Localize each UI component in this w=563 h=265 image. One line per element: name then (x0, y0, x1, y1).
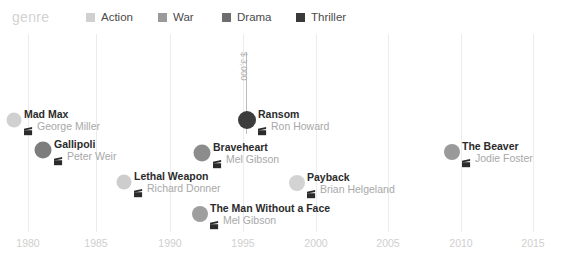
data-point-label: The BeaverJodie Foster (462, 140, 533, 165)
director-name: Mel Gibson (223, 214, 276, 226)
clapperboard-icon (213, 155, 222, 164)
data-point[interactable] (35, 142, 52, 159)
x-axis-tick-label: 2010 (449, 237, 472, 249)
clapperboard-icon (54, 152, 63, 161)
director-name: George Miller (37, 120, 100, 132)
clapperboard-icon (134, 184, 143, 193)
x-axis-tick-label: 1980 (16, 237, 39, 249)
clapperboard-icon (307, 185, 316, 194)
director-row: Richard Donner (134, 182, 221, 194)
clapperboard-icon (258, 122, 267, 131)
x-axis-tick-label: 2015 (521, 237, 544, 249)
gridline (96, 34, 97, 232)
film-title: The Beaver (462, 140, 533, 152)
director-row: George Miller (24, 120, 100, 132)
data-point-label: Lethal WeaponRichard Donner (134, 170, 221, 195)
film-title: The Man Without a Face (210, 202, 330, 214)
director-row: Ron Howard (258, 120, 329, 132)
data-point[interactable] (7, 113, 22, 128)
legend-item-label: Drama (237, 11, 272, 23)
data-point[interactable] (289, 175, 305, 191)
chart-root: genre ActionWarDramaThriller 19801985199… (0, 0, 563, 265)
data-point[interactable] (238, 111, 256, 129)
legend-swatch-icon (222, 13, 231, 22)
film-title: Lethal Weapon (134, 170, 221, 182)
legend-item-label: War (173, 11, 194, 23)
director-row: Jodie Foster (462, 152, 533, 164)
x-axis-tick-label: 2005 (376, 237, 399, 249)
data-point-label: GallipoliPeter Weir (54, 138, 116, 163)
legend: genre ActionWarDramaThriller (0, 0, 563, 34)
legend-swatch-icon (296, 13, 305, 22)
data-point[interactable] (444, 144, 460, 160)
film-title: Ransom (258, 108, 329, 120)
x-axis-tick-label: 1995 (231, 237, 254, 249)
legend-item-drama[interactable]: Drama (222, 11, 272, 23)
director-row: Mel Gibson (210, 214, 330, 226)
director-name: Mel Gibson (226, 153, 279, 165)
data-point-label: Mad MaxGeorge Miller (24, 108, 100, 133)
film-title: Mad Max (24, 108, 100, 120)
data-point[interactable] (117, 175, 132, 190)
director-name: Ron Howard (271, 120, 329, 132)
legend-item-war[interactable]: War (158, 11, 194, 23)
x-axis-tick-label: 1990 (158, 237, 181, 249)
plot-area: 19801985199019952000200520102015$ 3,000M… (0, 34, 563, 265)
director-name: Richard Donner (147, 182, 221, 194)
data-point-label: PaybackBrian Helgeland (307, 171, 395, 196)
data-point[interactable] (192, 206, 208, 222)
legend-swatch-icon (86, 13, 95, 22)
director-name: Jodie Foster (475, 152, 533, 164)
gridline (461, 34, 462, 232)
legend-swatch-icon (158, 13, 167, 22)
legend-item-label: Action (101, 11, 133, 23)
legend-item-label: Thriller (311, 11, 346, 23)
legend-title: genre (12, 9, 49, 25)
data-point[interactable] (194, 145, 211, 162)
film-title: Gallipoli (54, 138, 116, 150)
data-point-label: The Man Without a FaceMel Gibson (210, 202, 330, 227)
gridline (170, 34, 171, 232)
clapperboard-icon (462, 154, 471, 163)
x-axis-tick-label: 2000 (304, 237, 327, 249)
clapperboard-icon (24, 122, 33, 131)
data-point-label: BraveheartMel Gibson (213, 141, 279, 166)
director-name: Peter Weir (67, 150, 116, 162)
clapperboard-icon (210, 216, 219, 225)
gridline (533, 34, 534, 232)
film-title: Payback (307, 171, 395, 183)
gridline (388, 34, 389, 232)
data-point-label: RansomRon Howard (258, 108, 329, 133)
director-row: Brian Helgeland (307, 183, 395, 195)
director-row: Peter Weir (54, 150, 116, 162)
annotation-label: $ 3,000 (239, 52, 249, 80)
director-name: Brian Helgeland (320, 183, 395, 195)
legend-item-action[interactable]: Action (86, 11, 133, 23)
x-axis-tick-label: 1985 (84, 237, 107, 249)
legend-item-thriller[interactable]: Thriller (296, 11, 346, 23)
film-title: Braveheart (213, 141, 279, 153)
director-row: Mel Gibson (213, 153, 279, 165)
